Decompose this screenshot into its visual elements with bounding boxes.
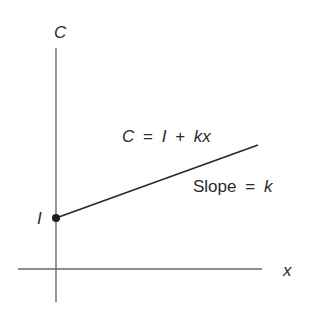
- slope-equals: =: [245, 177, 255, 196]
- equation-label: C = I + kx: [122, 127, 211, 146]
- slope-label: Slope = k: [193, 177, 274, 196]
- equation-lhs: C: [122, 127, 135, 146]
- slope-value: k: [264, 177, 274, 196]
- equation-equals: =: [143, 127, 153, 146]
- linear-function-diagram: C x I C = I + kx Slope = k: [0, 0, 318, 312]
- equation-term-intercept: I: [162, 127, 167, 146]
- slope-word: Slope: [193, 177, 236, 196]
- intercept-label: I: [37, 209, 42, 228]
- equation-plus: +: [175, 127, 185, 146]
- intercept-point: [52, 214, 60, 222]
- equation-term-kx: kx: [194, 127, 212, 146]
- y-axis-label: C: [54, 23, 67, 42]
- x-axis-label: x: [282, 261, 292, 280]
